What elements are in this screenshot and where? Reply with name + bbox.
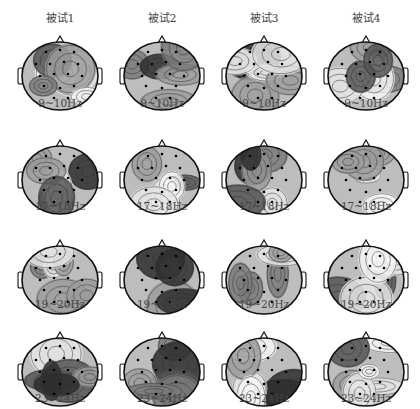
band-label: 17~18Hz xyxy=(112,200,212,212)
scalp-map-subject-1-row-3 xyxy=(10,228,110,328)
head-topomap-icon xyxy=(112,228,212,328)
head-topomap-icon xyxy=(112,128,212,228)
band-label: 9~10Hz xyxy=(10,97,110,109)
head-topomap-icon xyxy=(10,128,110,228)
scalp-map-subject-3-row-3 xyxy=(214,228,314,328)
band-label: 19~20Hz xyxy=(112,298,212,310)
head-topomap-icon xyxy=(316,24,416,124)
band-label: 17~18Hz xyxy=(214,200,314,212)
band-label: 19~20Hz xyxy=(214,298,314,310)
head-topomap-icon xyxy=(316,128,416,228)
head-topomap-icon xyxy=(316,228,416,328)
head-topomap-icon xyxy=(214,24,314,124)
scalp-map-subject-4-row-3 xyxy=(316,228,416,328)
head-topomap-icon xyxy=(112,24,212,124)
band-label: 19~20Hz xyxy=(316,298,416,310)
scalp-map-subject-4-row-1 xyxy=(316,24,416,124)
band-label: 17~18Hz xyxy=(10,200,110,212)
band-label: 9~10Hz xyxy=(214,97,314,109)
band-label: 17~18Hz xyxy=(316,200,416,212)
head-topomap-icon xyxy=(214,228,314,328)
band-label: 23~24Hz xyxy=(316,392,416,404)
scalp-map-subject-3-row-2 xyxy=(214,128,314,228)
band-label: 19~20Hz xyxy=(10,298,110,310)
scalp-map-subject-4-row-2 xyxy=(316,128,416,228)
head-topomap-icon xyxy=(10,24,110,124)
scalp-map-subject-2-row-3 xyxy=(112,228,212,328)
column-header-subject-3: 被试3 xyxy=(214,9,314,25)
column-header-subject-4: 被试4 xyxy=(316,9,416,25)
column-header-subject-1: 被试1 xyxy=(10,9,110,25)
column-header-subject-2: 被试2 xyxy=(112,9,212,25)
topography-figure: 被试1被试2被试3被试4 9~10Hz 9~10Hz xyxy=(0,0,420,409)
band-label: 23~24Hz xyxy=(214,392,314,404)
scalp-map-subject-2-row-2 xyxy=(112,128,212,228)
band-label: 9~10Hz xyxy=(112,97,212,109)
band-label: 23~24Hz xyxy=(10,392,110,404)
band-label: 9~10Hz xyxy=(316,97,416,109)
scalp-map-subject-3-row-1 xyxy=(214,24,314,124)
head-topomap-icon xyxy=(10,228,110,328)
scalp-map-subject-1-row-2 xyxy=(10,128,110,228)
scalp-map-subject-2-row-1 xyxy=(112,24,212,124)
scalp-map-subject-1-row-1 xyxy=(10,24,110,124)
head-topomap-icon xyxy=(214,128,314,228)
band-label: 23~24Hz xyxy=(112,392,212,404)
